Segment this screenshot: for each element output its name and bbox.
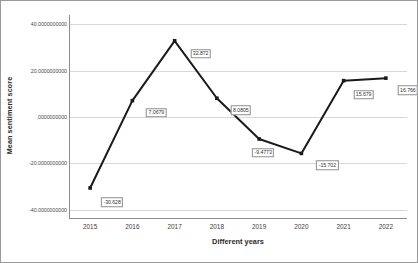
line-series-svg	[69, 15, 407, 219]
y-axis-title-text: Mean sentiment score	[6, 76, 15, 154]
y-axis-tick-labels: 40.000000000020.0000000000.0000000000-20…	[15, 1, 67, 229]
y-tick-label: -20.0000000000	[29, 160, 67, 166]
data-point-label: 32.872	[190, 49, 211, 59]
data-point-marker	[300, 152, 304, 156]
data-point-marker	[257, 137, 261, 141]
x-axis-tick-labels: 20152016201720182019202020212022	[69, 221, 407, 235]
y-tick-label: 40.0000000000	[31, 21, 67, 27]
plot-area: -30.6287.067932.8728.0805-9.4773-15.7021…	[69, 15, 407, 219]
data-point-label: -9.4773	[252, 148, 274, 158]
x-tick-label: 2016	[125, 223, 139, 230]
y-tick-label: 20.0000000000	[31, 68, 67, 74]
x-tick-label: 2020	[294, 223, 308, 230]
y-tick-label: .0000000000	[37, 114, 67, 120]
data-point-marker	[342, 79, 346, 83]
data-point-label: 15.679	[353, 90, 374, 100]
data-point-label: 16.766	[398, 85, 418, 95]
chart-figure: Mean sentiment score 40.000000000020.000…	[0, 0, 418, 263]
data-point-marker	[88, 186, 92, 190]
x-tick-label: 2019	[252, 223, 266, 230]
x-tick-label: 2021	[337, 223, 351, 230]
x-tick-label: 2017	[168, 223, 182, 230]
data-point-marker	[173, 39, 177, 43]
data-point-label: -15.702	[316, 161, 338, 171]
data-point-label: 8.0805	[231, 106, 252, 116]
y-tick-label: -40.0000000000	[29, 207, 67, 213]
data-point-marker	[215, 96, 219, 100]
data-point-label: 7.0679	[146, 108, 167, 118]
data-point-marker	[384, 76, 388, 80]
data-point-label: -30.628	[101, 197, 123, 207]
x-tick-label: 2015	[83, 223, 97, 230]
x-tick-label: 2018	[210, 223, 224, 230]
data-point-marker	[131, 99, 135, 103]
x-axis-title: Different years	[69, 237, 407, 246]
x-tick-label: 2022	[379, 223, 393, 230]
